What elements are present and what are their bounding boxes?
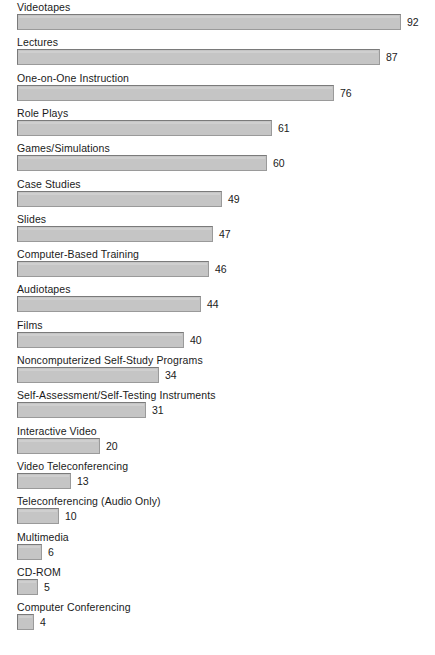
bar-row: One-on-One Instruction76 [0, 72, 435, 107]
bar-value-label: 47 [219, 227, 231, 241]
bar-track [17, 367, 159, 383]
bar-track [17, 438, 100, 454]
bar-category-label: Role Plays [17, 107, 68, 119]
bar-track [17, 579, 38, 595]
bar-value-label: 76 [340, 86, 352, 100]
bar [17, 332, 184, 348]
bar-highlight [19, 546, 40, 548]
bar-value-label: 6 [48, 545, 54, 559]
bar-highlight [19, 298, 199, 300]
bar-track [17, 261, 209, 277]
bar-row: Role Plays61 [0, 107, 435, 142]
bar-track [17, 49, 380, 65]
bar [17, 579, 38, 595]
bar [17, 296, 201, 312]
bar-value-label: 31 [152, 403, 164, 417]
bar-track [17, 614, 34, 630]
bar-highlight [19, 404, 144, 406]
bar-highlight [19, 440, 98, 442]
bar-track [17, 473, 71, 489]
bar-value-label: 44 [207, 297, 219, 311]
bar-category-label: Games/Simulations [17, 142, 110, 154]
bar-value-label: 49 [228, 192, 240, 206]
bar-category-label: Films [17, 319, 43, 331]
bar-category-label: One-on-One Instruction [17, 72, 129, 84]
bar-value-label: 87 [386, 50, 398, 64]
bar-highlight [19, 51, 378, 53]
bar-category-label: Noncomputerized Self-Study Programs [17, 354, 203, 366]
bar-highlight [19, 228, 211, 230]
horizontal-bar-chart: Videotapes92Lectures87One-on-One Instruc… [0, 0, 435, 655]
bar-row: Interactive Video20 [0, 425, 435, 460]
bar [17, 614, 34, 630]
bar-row: Audiotapes44 [0, 283, 435, 318]
bar-category-label: Video Teleconferencing [17, 460, 128, 472]
bar-highlight [19, 193, 220, 195]
bar [17, 85, 334, 101]
bar-category-label: Computer-Based Training [17, 248, 139, 260]
bar-track [17, 508, 59, 524]
bar [17, 191, 222, 207]
bar [17, 402, 146, 418]
bar-value-label: 10 [65, 509, 77, 523]
bar-row: Self-Assessment/Self-Testing Instruments… [0, 389, 435, 424]
bar-category-label: Slides [17, 213, 46, 225]
bar-highlight [19, 87, 332, 89]
bar-highlight [19, 16, 399, 18]
bar-track [17, 120, 272, 136]
bar-track [17, 191, 222, 207]
bar-category-label: Teleconferencing (Audio Only) [17, 495, 161, 507]
bar-value-label: 4 [40, 615, 46, 629]
bar [17, 226, 213, 242]
bar [17, 155, 267, 171]
bar-value-label: 40 [190, 333, 202, 347]
bar [17, 508, 59, 524]
bar-track [17, 155, 267, 171]
bar-row: Computer Conferencing4 [0, 601, 435, 636]
bar-track [17, 402, 146, 418]
bar-value-label: 13 [77, 474, 89, 488]
bar-value-label: 5 [44, 580, 50, 594]
bar-row: Multimedia6 [0, 531, 435, 566]
bar-highlight [19, 581, 36, 583]
bar-track [17, 544, 42, 560]
bar-value-label: 20 [106, 439, 118, 453]
bar [17, 473, 71, 489]
bar-track [17, 332, 184, 348]
bar-row: Teleconferencing (Audio Only)10 [0, 495, 435, 530]
bar-category-label: Case Studies [17, 178, 81, 190]
bar-value-label: 46 [215, 262, 227, 276]
bar [17, 120, 272, 136]
bar-row: CD-ROM5 [0, 566, 435, 601]
bar [17, 261, 209, 277]
bar-row: Computer-Based Training46 [0, 248, 435, 283]
bar-value-label: 34 [165, 368, 177, 382]
bar-highlight [19, 475, 69, 477]
bar-row: Lectures87 [0, 36, 435, 71]
bar-track [17, 296, 201, 312]
bar-highlight [19, 157, 265, 159]
bar-category-label: Audiotapes [17, 283, 71, 295]
bar-category-label: Multimedia [17, 531, 69, 543]
bar-row: Noncomputerized Self-Study Programs34 [0, 354, 435, 389]
bar-category-label: CD-ROM [17, 566, 61, 578]
bar-track [17, 226, 213, 242]
bar-track [17, 14, 401, 30]
bar [17, 367, 159, 383]
bar-category-label: Self-Assessment/Self-Testing Instruments [17, 389, 216, 401]
bar [17, 544, 42, 560]
bar [17, 49, 380, 65]
bar-track [17, 85, 334, 101]
bar-highlight [19, 510, 57, 512]
bar-category-label: Interactive Video [17, 425, 97, 437]
bar [17, 438, 100, 454]
bar-row: Slides47 [0, 213, 435, 248]
bar-row: Videotapes92 [0, 1, 435, 36]
bar-highlight [19, 616, 32, 618]
bar-category-label: Computer Conferencing [17, 601, 131, 613]
bar-row: Games/Simulations60 [0, 142, 435, 177]
bar-highlight [19, 334, 182, 336]
bar-value-label: 60 [273, 156, 285, 170]
bar-value-label: 92 [407, 15, 419, 29]
bar-row: Video Teleconferencing13 [0, 460, 435, 495]
